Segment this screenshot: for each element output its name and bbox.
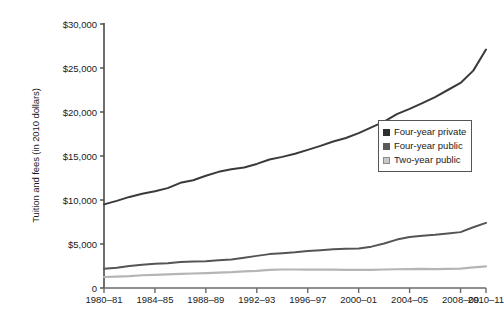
- legend-item: Two-year public: [383, 153, 466, 167]
- legend-item: Four-year public: [383, 139, 466, 153]
- chart-legend: Four-year private Four-year public Two-y…: [378, 120, 472, 172]
- x-tick-label: 2010–11: [468, 294, 504, 305]
- legend-label: Two-year public: [394, 155, 461, 165]
- legend-label: Four-year public: [394, 141, 463, 151]
- x-tick-label: 1984–85: [136, 294, 173, 305]
- x-tick-label: 1980–81: [86, 294, 123, 305]
- y-tick-label: $20,000: [63, 107, 97, 118]
- y-axis-tick-labels: 0$5,000$10,000$15,000$20,000$25,000$30,0…: [0, 0, 97, 319]
- legend-item: Four-year private: [383, 125, 466, 139]
- x-tick-label: 2004–05: [391, 294, 428, 305]
- legend-swatch-four-year-public: [383, 143, 390, 150]
- y-tick-label: $5,000: [68, 239, 97, 250]
- y-tick-label: $15,000: [63, 151, 97, 162]
- x-tick-label: 1992–93: [238, 294, 275, 305]
- y-tick-label: 0: [92, 283, 97, 294]
- y-tick-label: $30,000: [63, 19, 97, 30]
- x-tick-label: 2000–01: [340, 294, 377, 305]
- y-tick-label: $10,000: [63, 195, 97, 206]
- legend-swatch-four-year-private: [383, 129, 390, 136]
- legend-swatch-two-year-public: [383, 157, 390, 164]
- series-line-four-year-public: [104, 223, 486, 269]
- x-tick-label: 1996–97: [289, 294, 326, 305]
- series-line-two-year-public: [104, 266, 486, 277]
- legend-label: Four-year private: [394, 127, 466, 137]
- y-tick-label: $25,000: [63, 63, 97, 74]
- x-tick-label: 1988–89: [187, 294, 224, 305]
